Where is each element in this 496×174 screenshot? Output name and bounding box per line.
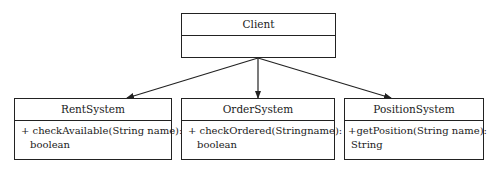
- class-operations: + checkOrdered(Stringname): boolean: [182, 121, 334, 152]
- class-operations-empty: [182, 36, 335, 39]
- operation-signature: + checkAvailable(String name):: [21, 124, 167, 138]
- class-name: RentSystem: [15, 99, 171, 121]
- class-client: Client: [181, 13, 336, 58]
- operation-signature: + checkOrdered(Stringname):: [188, 124, 330, 138]
- operation-return-type: boolean: [188, 138, 330, 152]
- operation-signature: +getPosition(String name):: [348, 124, 479, 138]
- arrow-client-to-rentsystem: [127, 58, 258, 98]
- class-name: Client: [182, 14, 335, 36]
- class-rentsystem: RentSystem + checkAvailable(String name)…: [14, 98, 172, 160]
- class-operations: + checkAvailable(String name): boolean: [15, 121, 171, 152]
- class-positionsystem: PositionSystem +getPosition(String name)…: [344, 98, 484, 160]
- class-name: PositionSystem: [345, 99, 483, 121]
- class-operations: +getPosition(String name): String: [345, 121, 483, 152]
- arrow-client-to-positionsystem: [258, 58, 391, 98]
- class-name: OrderSystem: [182, 99, 334, 121]
- operation-return-type: boolean: [21, 138, 167, 152]
- class-ordersystem: OrderSystem + checkOrdered(Stringname): …: [181, 98, 335, 160]
- operation-return-type: String: [348, 138, 479, 152]
